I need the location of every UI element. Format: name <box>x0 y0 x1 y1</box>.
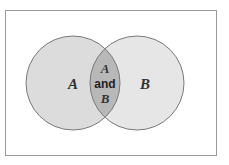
intersection-label-b: B <box>100 91 110 106</box>
venn-diagram: A B A and B <box>0 0 229 165</box>
intersection-label-and: and <box>94 77 115 91</box>
set-b-label: B <box>139 76 150 92</box>
intersection-label-a: A <box>100 61 110 76</box>
set-a-label: A <box>67 76 78 92</box>
